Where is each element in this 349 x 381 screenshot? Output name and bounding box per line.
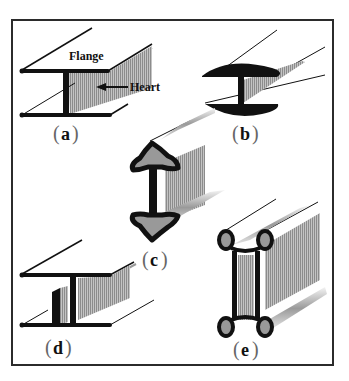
panel-d-stiffened-i-beam (20, 240, 155, 328)
panel-a-i-beam (20, 28, 153, 118)
svg-text:d: d (53, 338, 63, 358)
panel-c-bulb-flange-beam (132, 108, 225, 240)
panel-b-rounded-flange-beam (202, 30, 325, 116)
heart-label: Heart (130, 80, 160, 94)
panel-e-caption: ( e ) (233, 338, 259, 361)
svg-text:(: ( (45, 336, 52, 359)
svg-text:a: a (61, 124, 70, 144)
svg-text:c: c (150, 250, 158, 270)
svg-text:(: ( (53, 122, 60, 145)
svg-text:): ) (72, 122, 79, 145)
flange-label: Flange (69, 49, 104, 63)
svg-text:e: e (241, 340, 249, 360)
svg-text:(: ( (142, 248, 149, 271)
panel-c-caption: ( c ) (142, 248, 168, 271)
svg-text:): ) (161, 248, 168, 271)
panel-e-curled-flange-beam (219, 199, 327, 336)
svg-text:(: ( (233, 338, 240, 361)
svg-text:): ) (252, 338, 259, 361)
svg-text:(: ( (232, 122, 239, 145)
svg-text:b: b (240, 124, 250, 144)
svg-text:): ) (252, 122, 259, 145)
panel-d-caption: ( d ) (45, 336, 72, 359)
beam-profiles-diagram: Flange Heart ( a ) ( b ) ( c ) (0, 0, 349, 381)
svg-text:): ) (65, 336, 72, 359)
panel-b-caption: ( b ) (232, 122, 259, 145)
panel-a-caption: ( a ) (53, 122, 79, 145)
